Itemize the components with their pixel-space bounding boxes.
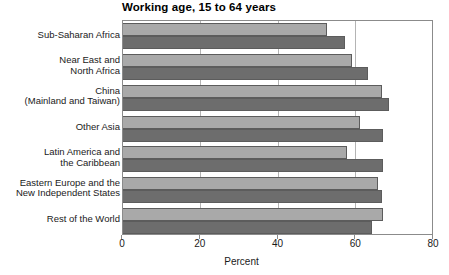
category-label: Sub-Saharan Africa [2,30,120,41]
bar-series-light [123,116,360,129]
bar-series-dark [123,36,345,49]
category-label-line: (Mainland and Taiwan) [2,96,120,107]
bar-series-light [123,85,382,98]
x-tick-label: 40 [272,238,283,249]
x-axis-title: Percent [0,256,449,267]
category-label-line: Other Asia [2,122,120,133]
chart-title: Working age, 15 to 64 years [122,1,276,13]
category-label: Eastern Europe and theNew Independent St… [2,178,120,199]
category-label-line: North Africa [2,66,120,77]
bar-series-dark [123,221,372,234]
bar-series-light [123,54,352,67]
x-axis-ticks: 020406080 [0,235,449,253]
x-tick-label: 20 [194,238,205,249]
bar-series-light [123,146,347,159]
category-label-line: the Caribbean [2,158,120,169]
category-label: Latin America andthe Caribbean [2,147,120,168]
category-label: China(Mainland and Taiwan) [2,86,120,107]
bar-series-dark [123,67,368,80]
category-label: Near East andNorth Africa [2,55,120,76]
category-label: Other Asia [2,122,120,133]
bar-series-dark [123,129,383,142]
category-label-line: Sub-Saharan Africa [2,30,120,41]
chart-figure: Working age, 15 to 64 years Sub-Saharan … [0,0,449,275]
bar-series-light [123,177,378,190]
x-tick-label: 0 [119,238,125,249]
x-axis-title-label: Percent [224,256,258,267]
bar-group [123,146,432,172]
bar-group [123,116,432,142]
category-label-line: Near East and [2,55,120,66]
category-axis-labels: Sub-Saharan AfricaNear East andNorth Afr… [0,20,120,235]
x-tick-label: 80 [427,238,438,249]
bar-series-dark [123,159,383,172]
category-label-line: Rest of the World [2,214,120,225]
bar-group [123,177,432,203]
bar-group [123,208,432,234]
bar-series-light [123,23,327,36]
bar-group [123,54,432,80]
bar-group [123,23,432,49]
bar-group [123,85,432,111]
category-label-line: New Independent States [2,188,120,199]
bar-series-light [123,208,383,221]
bar-series-dark [123,190,382,203]
bar-series-dark [123,98,389,111]
category-label: Rest of the World [2,214,120,225]
x-tick-label: 60 [350,238,361,249]
plot-area [122,20,433,235]
